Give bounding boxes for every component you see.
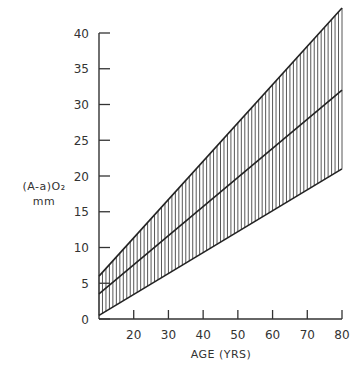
x-tick-label: 20 — [126, 328, 141, 342]
y-tick-label: 10 — [74, 241, 89, 255]
y-tick-label: 40 — [74, 27, 89, 41]
y-tick-label: 30 — [74, 98, 89, 112]
x-tick-label: 60 — [265, 328, 280, 342]
y-tick-label: 35 — [74, 62, 89, 76]
y-axis-title: (A-a)O₂ — [22, 180, 65, 193]
chart: 051015202530354020304050607080(A-a)O₂mmA… — [0, 0, 362, 372]
y-axis-unit: mm — [33, 195, 55, 208]
x-axis-title: AGE (YRS) — [191, 348, 252, 361]
x-tick-label: 50 — [230, 328, 245, 342]
y-tick-label: 20 — [74, 170, 89, 184]
x-tick-label: 80 — [334, 328, 349, 342]
mean-line — [99, 90, 342, 294]
x-tick-label: 40 — [196, 328, 211, 342]
y-tick-label: 15 — [74, 205, 89, 219]
x-tick-label: 30 — [161, 328, 176, 342]
y-tick-label: 0 — [81, 313, 89, 327]
y-tick-label: 5 — [81, 277, 89, 291]
y-tick-label: 25 — [74, 134, 89, 148]
x-tick-label: 70 — [300, 328, 315, 342]
